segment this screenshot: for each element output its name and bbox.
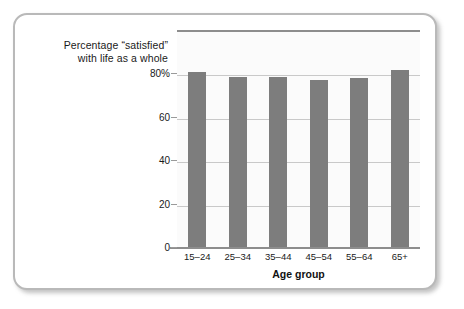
bar [269,77,287,247]
bar-series [177,30,420,247]
x-axis-line [170,247,420,249]
x-axis-tick-label: 25–34 [225,251,251,262]
y-axis-tick-mark [171,204,177,205]
chart-figure: Percentage “satisfied” with life as a wh… [0,0,464,309]
bar [188,72,206,247]
bar [310,80,328,247]
x-axis-tick-label: 55–64 [346,251,372,262]
x-axis-title: Age group [177,268,420,280]
y-axis-tick-label: 40 [130,155,170,166]
x-axis-tick-label: 35–44 [265,251,291,262]
y-axis-tick-mark [171,247,177,248]
y-axis-tick-label: 60 [130,111,170,122]
x-axis-tick-labels: 15–2425–3435–4445–5455–6465+ [177,251,420,267]
y-axis-tick-mark [171,160,177,161]
x-axis-tick-label: 15–24 [184,251,210,262]
y-axis-tick-mark [171,73,177,74]
y-axis-tick-label: 20 [130,198,170,209]
x-axis-tick-label: 45–54 [306,251,332,262]
bar [229,77,247,247]
x-axis-tick-label: 65+ [392,251,408,262]
y-axis-labels: 80%6040200 [126,0,170,309]
y-axis-tick-label: 0 [130,242,170,253]
y-axis-tick-label: 80% [130,68,170,79]
y-axis-tick-mark [171,117,177,118]
bar [350,78,368,247]
bar [391,70,409,247]
